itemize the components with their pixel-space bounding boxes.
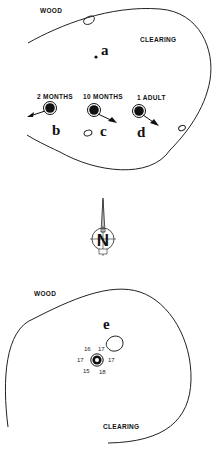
clearing-boundary xyxy=(27,8,211,169)
reading-top-left: 16 xyxy=(84,346,91,352)
bush-icon xyxy=(106,336,123,351)
wood-label: WOOD xyxy=(34,290,56,297)
site-b-letter: b xyxy=(52,122,60,138)
reading-bottom-right: 18 xyxy=(99,369,106,375)
wood-label: WOOD xyxy=(40,7,62,14)
site-d-letter: d xyxy=(137,124,146,140)
site-d-arrowhead-icon xyxy=(150,119,159,126)
figure: WOOD CLEARING a 2 MONTHS b 10 MONTHS c 1… xyxy=(0,0,213,453)
bush-icon xyxy=(83,129,92,137)
site-a-letter: a xyxy=(101,42,109,58)
site-a-point xyxy=(94,55,97,58)
reading-right: 17 xyxy=(108,357,115,363)
reading-top-right: 17 xyxy=(98,346,105,352)
site-c-marker xyxy=(89,105,99,115)
compass-n-label: N xyxy=(97,231,109,250)
site-b-caption: 2 MONTHS xyxy=(37,93,73,100)
site-c-arrowhead-icon xyxy=(108,117,117,123)
bottom-map: WOOD CLEARING e 16 17 17 17 15 18 xyxy=(5,289,191,443)
clearing-label: CLEARING xyxy=(103,423,139,430)
site-d-marker xyxy=(134,106,144,116)
site-b-arrowhead-icon xyxy=(27,112,34,117)
north-arrow-icon: N xyxy=(90,198,116,256)
site-c-caption: 10 MONTHS xyxy=(83,93,123,100)
site-e-letter: e xyxy=(103,316,110,332)
site-e-center xyxy=(95,358,99,362)
site-c-letter: c xyxy=(100,123,107,139)
site-b-marker xyxy=(45,103,55,113)
site-d-caption: 1 ADULT xyxy=(137,94,166,101)
clearing-label: CLEARING xyxy=(140,36,176,43)
reading-left: 17 xyxy=(77,357,84,363)
bush-icon xyxy=(178,124,186,131)
reading-bottom-left: 15 xyxy=(83,368,90,374)
top-map: WOOD CLEARING a 2 MONTHS b 10 MONTHS c 1… xyxy=(27,7,211,170)
